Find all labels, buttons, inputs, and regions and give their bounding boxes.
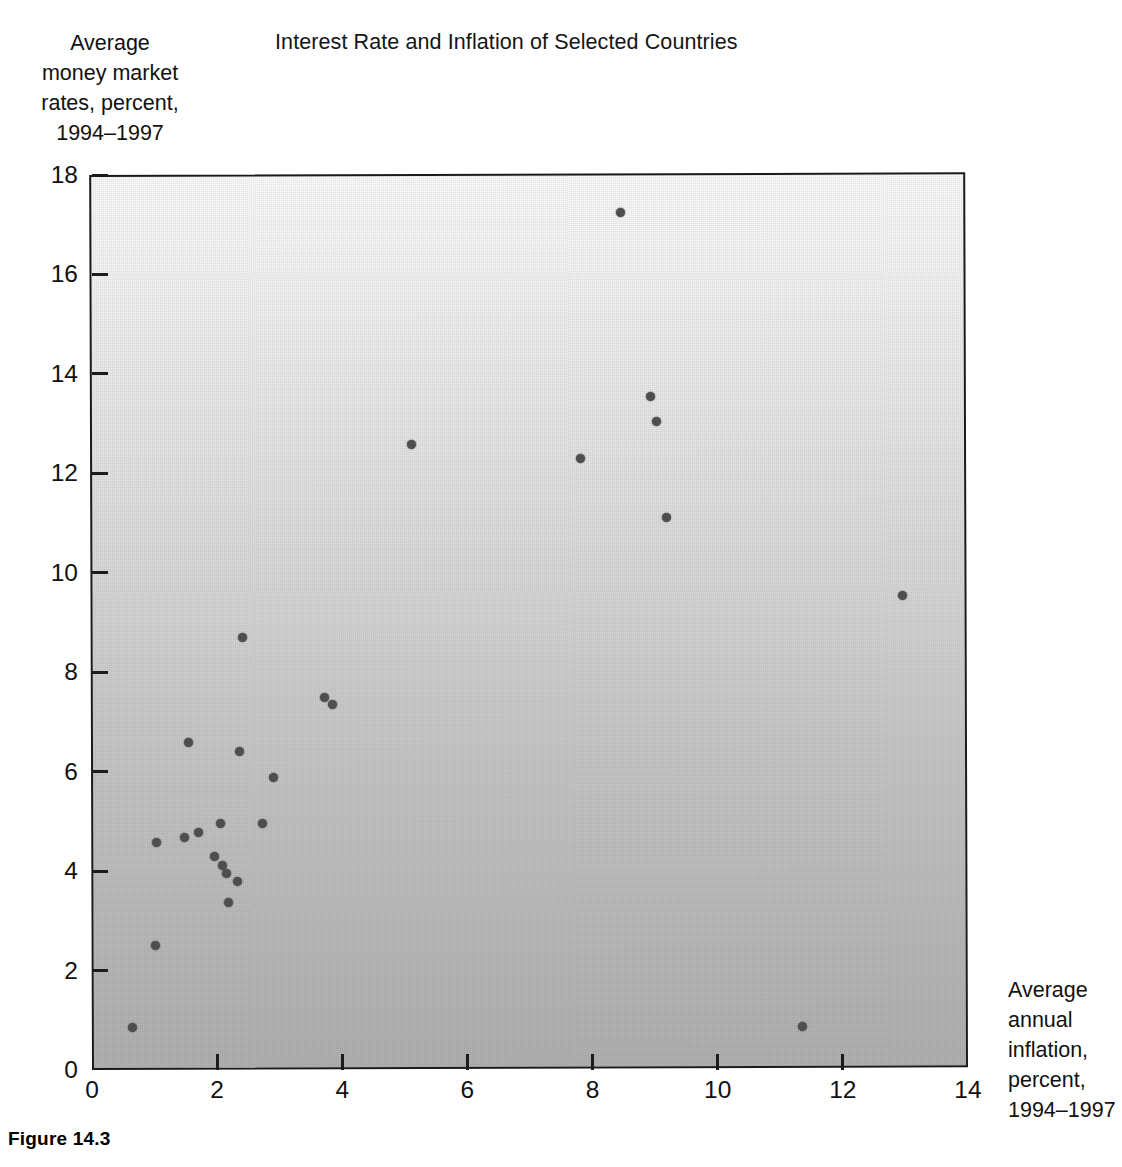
data-point bbox=[652, 417, 661, 426]
y-tick-label-18: 18 bbox=[8, 163, 78, 188]
data-point bbox=[194, 828, 203, 837]
x-tick-label-10: 10 bbox=[683, 1078, 753, 1103]
data-point bbox=[238, 633, 247, 642]
data-point bbox=[235, 747, 244, 756]
data-point bbox=[233, 877, 242, 886]
y-tick-label-16: 16 bbox=[8, 262, 78, 287]
data-point bbox=[210, 852, 219, 861]
x-tick-label-14: 14 bbox=[933, 1078, 1003, 1103]
figure-caption: Figure 14.3 bbox=[8, 1128, 111, 1150]
data-point bbox=[224, 898, 233, 907]
data-point bbox=[269, 773, 278, 782]
x-tick-4 bbox=[341, 1054, 344, 1070]
y-tick-label-2: 2 bbox=[8, 959, 78, 984]
data-point bbox=[646, 392, 655, 401]
y-tick-label-8: 8 bbox=[8, 660, 78, 685]
plot-frame bbox=[92, 175, 968, 1070]
chart-title: Interest Rate and Inflation of Selected … bbox=[275, 29, 738, 55]
y-tick-label-6: 6 bbox=[8, 760, 78, 785]
y-tick-16 bbox=[92, 273, 108, 276]
data-point bbox=[320, 693, 329, 702]
x-tick-10 bbox=[716, 1054, 719, 1070]
x-tick-label-12: 12 bbox=[808, 1078, 878, 1103]
y-tick-8 bbox=[92, 671, 108, 674]
y-tick-4 bbox=[92, 870, 108, 873]
x-tick-label-6: 6 bbox=[432, 1078, 502, 1103]
x-tick-label-0: 0 bbox=[57, 1078, 127, 1103]
x-tick-12 bbox=[841, 1054, 844, 1070]
data-point bbox=[616, 208, 625, 217]
plot-area bbox=[89, 172, 968, 1070]
data-point bbox=[407, 440, 416, 449]
y-tick-18 bbox=[92, 174, 108, 177]
x-tick-label-8: 8 bbox=[558, 1078, 628, 1103]
y-tick-2 bbox=[92, 969, 108, 972]
y-tick-14 bbox=[92, 372, 108, 375]
y-tick-6 bbox=[92, 770, 108, 773]
y-tick-label-14: 14 bbox=[8, 362, 78, 387]
data-point bbox=[180, 833, 189, 842]
y-tick-12 bbox=[92, 472, 108, 475]
x-axis-caption: Average annual inflation, percent, 1994–… bbox=[1008, 975, 1122, 1125]
y-axis-caption: Average money market rates, percent, 199… bbox=[10, 28, 210, 148]
data-point bbox=[576, 454, 585, 463]
x-tick-6 bbox=[466, 1054, 469, 1070]
data-point bbox=[662, 513, 671, 522]
y-tick-label-12: 12 bbox=[8, 461, 78, 486]
x-tick-2 bbox=[216, 1054, 219, 1070]
x-tick-label-4: 4 bbox=[307, 1078, 377, 1103]
x-tick-label-2: 2 bbox=[182, 1078, 252, 1103]
x-tick-8 bbox=[591, 1054, 594, 1070]
y-tick-label-10: 10 bbox=[8, 561, 78, 586]
y-tick-10 bbox=[92, 571, 108, 574]
data-point bbox=[798, 1022, 807, 1031]
y-tick-label-4: 4 bbox=[8, 859, 78, 884]
